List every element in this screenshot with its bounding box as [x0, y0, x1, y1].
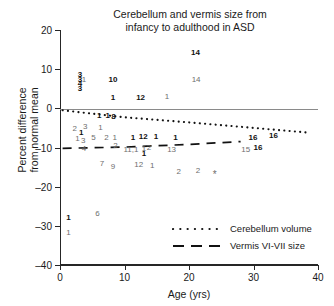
data-point-label: 2: [73, 125, 77, 133]
data-point-label: 3: [83, 123, 87, 131]
data-point-label: 1: [97, 112, 101, 120]
data-point-label: 1: [105, 112, 109, 120]
data-point-label: 1: [66, 229, 70, 237]
legend-row: Cerebellum volume: [172, 220, 312, 237]
data-point-label: 16: [269, 132, 278, 140]
data-point-label: 1: [142, 145, 146, 153]
data-point-label: 11,1: [123, 146, 138, 154]
chart-legend: Cerebellum volumeVermis VI-VII size: [172, 220, 312, 254]
data-point-label: 1: [131, 134, 135, 142]
data-point-label: 3: [78, 85, 82, 93]
data-point-label: 6: [95, 210, 99, 218]
data-point-label: 7: [100, 160, 104, 168]
legend-label: Vermis VI-VII size: [230, 240, 305, 251]
data-point-label: 8: [111, 113, 115, 121]
data-point-label: 1: [82, 76, 86, 84]
data-point-label: 14: [192, 76, 201, 84]
data-point-label: 12: [139, 133, 148, 141]
data-point-label: 1: [111, 94, 115, 102]
data-point-label: 2: [113, 142, 117, 150]
data-point-label: 2: [176, 168, 180, 176]
data-point-label: 16: [248, 134, 257, 142]
data-point-label: 12: [136, 94, 145, 102]
data-point-label: 1: [150, 162, 154, 170]
data-point-label: 2: [104, 134, 108, 142]
data-point-label: 1: [173, 134, 177, 142]
data-point-label: 9: [111, 163, 115, 171]
legend-row: Vermis VI-VII size: [172, 237, 312, 254]
data-point-label: *: [213, 171, 217, 179]
data-point-label: 2: [196, 167, 200, 175]
legend-key-dashed-icon: [172, 241, 224, 251]
data-point-label: 15: [241, 146, 250, 154]
data-point-label: 12: [134, 161, 143, 169]
data-point-label: 5: [91, 134, 95, 142]
trend-line-dashed: [63, 142, 241, 149]
legend-key-dotted-icon: [172, 224, 224, 234]
data-point-label: 1: [165, 93, 169, 101]
data-point-label: 1: [98, 124, 102, 132]
legend-label: Cerebellum volume: [230, 223, 312, 234]
data-point-label: 1: [154, 133, 158, 141]
data-point-label: 14: [191, 49, 200, 57]
chart-figure: Cerebellum and vermis size from infancy …: [0, 0, 334, 306]
data-point-label: 1: [66, 214, 70, 222]
data-point-label: 10: [108, 76, 117, 84]
data-point-label: 1: [75, 135, 79, 143]
data-point-label: 4: [82, 145, 86, 153]
data-point-label: 2: [147, 144, 151, 152]
data-point-label: 16: [254, 144, 263, 152]
data-point-label: 13: [167, 146, 176, 154]
